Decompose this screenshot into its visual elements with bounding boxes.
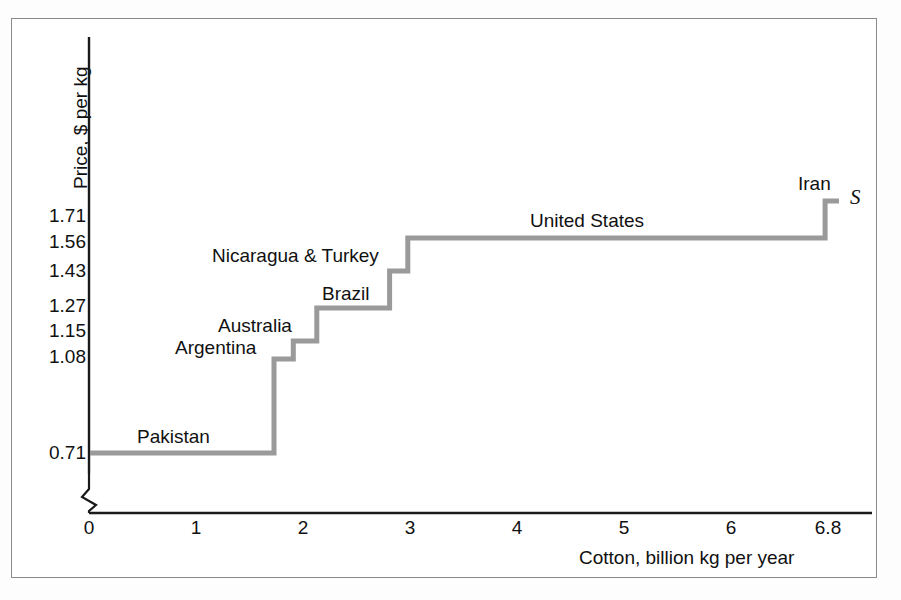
series-label-nicaragua-turkey: Nicaragua & Turkey (212, 245, 379, 267)
curve-label-s: S (850, 185, 861, 210)
supply-step-curve (90, 201, 839, 453)
series-label-brazil: Brazil (322, 283, 370, 305)
series-label-pakistan: Pakistan (137, 426, 210, 448)
series-label-iran: Iran (798, 173, 831, 195)
series-label-argentina: Argentina (175, 337, 256, 359)
supply-curve-plot (12, 19, 878, 579)
series-label-united-states: United States (530, 210, 644, 232)
chart-frame: Price, $ per kg 1.71 1.56 1.43 1.27 1.15… (11, 18, 877, 578)
series-label-australia: Australia (218, 315, 292, 337)
figure-canvas: Price, $ per kg 1.71 1.56 1.43 1.27 1.15… (0, 0, 901, 600)
y-axis-break-icon (82, 474, 96, 513)
